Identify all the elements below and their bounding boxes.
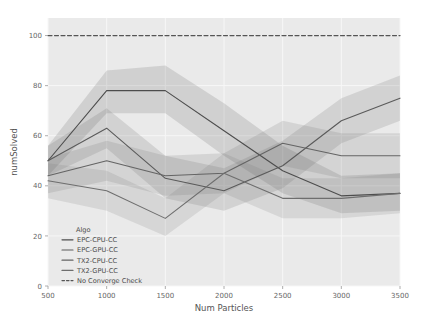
legend-label-3: TX2-CPU-CC [76, 257, 118, 265]
x-tick-label: 1000 [98, 292, 116, 300]
y-tick-label: 0 [38, 283, 42, 291]
legend-label-1: EPC-CPU-CC [77, 236, 118, 244]
x-tick-label: 2500 [274, 292, 292, 300]
x-axis-label: Num Particles [195, 303, 254, 313]
x-tick-label: 3500 [391, 292, 409, 300]
legend-title: Algo [76, 226, 91, 234]
chart-canvas: 020406080100 500100015002000250030003500… [0, 0, 421, 322]
y-axis-ticks-group: 020406080100 [29, 32, 48, 290]
y-tick-label: 20 [33, 233, 42, 241]
legend-label-5: No Converge Check [77, 277, 142, 285]
x-axis-ticks-group: 500100015002000250030003500 [41, 286, 409, 300]
legend-label-4: TX2-GPU-CC [76, 267, 118, 275]
x-tick-label: 3000 [332, 292, 350, 300]
chart-figure: 020406080100 500100015002000250030003500… [0, 0, 421, 322]
y-tick-label: 40 [33, 182, 42, 190]
y-tick-label: 100 [29, 32, 42, 40]
legend-label-2: EPC-GPU-CC [77, 246, 118, 254]
x-tick-label: 1500 [156, 292, 174, 300]
y-axis-label: numSolved [9, 128, 19, 176]
x-tick-label: 2000 [215, 292, 233, 300]
y-tick-label: 60 [33, 132, 42, 140]
y-tick-label: 80 [33, 82, 42, 90]
x-tick-label: 500 [41, 292, 54, 300]
